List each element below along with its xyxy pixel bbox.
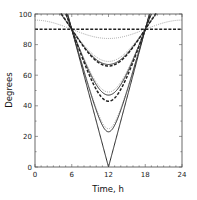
series-line-dotted (67, 14, 150, 129)
x-tick-label: 6 (70, 171, 75, 179)
y-tick-label: 80 (23, 41, 32, 49)
axis-ticks (35, 14, 182, 167)
y-axis-label: Degrees (4, 72, 14, 108)
chart: 06121824 020406080100 Time, h Degrees (0, 0, 197, 200)
series-line-solid (67, 14, 150, 132)
y-tick-labels: 020406080100 (19, 11, 32, 172)
x-axis-label: Time, h (91, 184, 124, 194)
y-tick-label: 100 (19, 11, 32, 19)
x-tick-label: 24 (178, 171, 187, 179)
series-line-solid (67, 14, 149, 167)
x-tick-label: 18 (141, 171, 150, 179)
plot-frame (35, 14, 182, 167)
y-tick-label: 60 (23, 72, 32, 80)
x-tick-label: 12 (104, 171, 113, 179)
x-tick-labels: 06121824 (33, 171, 187, 179)
y-tick-label: 40 (23, 102, 32, 110)
y-tick-label: 20 (23, 133, 32, 141)
plot-curves (35, 14, 182, 167)
y-tick-label: 0 (28, 164, 32, 172)
x-tick-label: 0 (33, 171, 37, 179)
series-line-dashed (66, 14, 151, 101)
